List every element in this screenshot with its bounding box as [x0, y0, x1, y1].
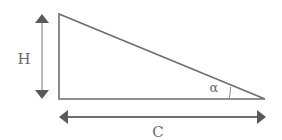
height-label: H: [17, 50, 30, 68]
base-dimension-arrow: [59, 110, 266, 124]
arrow-left-icon: [59, 110, 68, 124]
arrow-down-icon: [35, 90, 49, 99]
angle-arc: [229, 87, 231, 99]
angle-label: α: [210, 80, 219, 95]
height-dimension-arrow: [35, 14, 49, 99]
arrow-right-icon: [257, 110, 266, 124]
triangle-diagram: H C α: [0, 0, 282, 140]
base-label: C: [152, 123, 163, 140]
right-triangle: [59, 14, 265, 99]
arrow-up-icon: [35, 14, 49, 23]
